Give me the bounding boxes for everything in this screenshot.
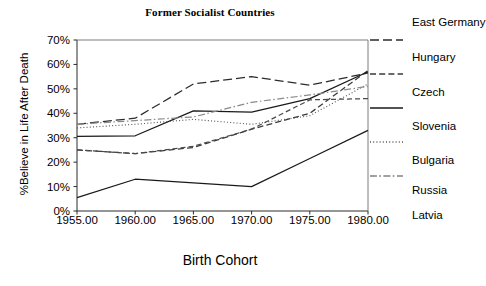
series-line-east-germany: [77, 73, 368, 124]
series-line-latvia: [77, 130, 368, 197]
series-line-czech: [77, 72, 368, 137]
series-line-russia: [77, 99, 368, 154]
